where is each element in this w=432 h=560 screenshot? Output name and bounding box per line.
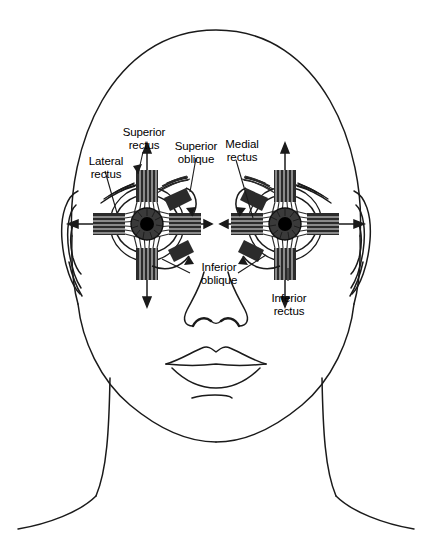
lower-lip [172, 368, 260, 388]
nose-left-nostril [193, 318, 211, 326]
chin-crease [192, 395, 232, 398]
leader-inferior-oblique-left [162, 259, 190, 273]
nose-base [211, 321, 221, 323]
right-shoulder [336, 496, 414, 529]
label-lateral-rectus: Lateral rectus [78, 155, 134, 180]
nose-right-nostril [221, 318, 239, 326]
left-jawline [78, 304, 216, 442]
right-pupil [278, 217, 292, 231]
label-inferior-oblique: Inferior oblique [190, 261, 248, 286]
right-neck [322, 378, 336, 496]
upper-lip [166, 347, 266, 364]
left-pupil [140, 217, 154, 231]
right-jawline [216, 304, 354, 442]
label-inferior-rectus: Inferior rectus [262, 292, 316, 317]
extraocular-muscle-diagram: Lateral rectus Superior rectus Superior … [0, 0, 432, 560]
label-medial-rectus: Medial rectus [216, 138, 268, 163]
left-neck [96, 378, 110, 496]
lip-line [166, 364, 266, 366]
left-shoulder [18, 496, 96, 529]
